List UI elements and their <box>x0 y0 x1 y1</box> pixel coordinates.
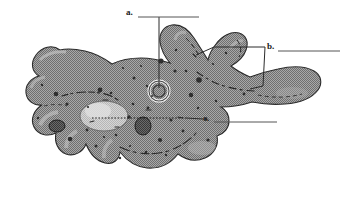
amoeba-diagram <box>0 0 352 216</box>
amoeba-body <box>26 25 321 168</box>
label-b-text: b. <box>267 42 274 51</box>
food-vacuole-secondary <box>49 120 65 132</box>
figure-canvas: a. b. c. <box>0 0 352 216</box>
food-vacuole <box>135 117 151 135</box>
label-c-text: c. <box>203 114 209 123</box>
nucleus-highlight <box>85 103 111 119</box>
cytoplasm-outline <box>26 25 321 168</box>
label-a-text: a. <box>126 8 133 17</box>
